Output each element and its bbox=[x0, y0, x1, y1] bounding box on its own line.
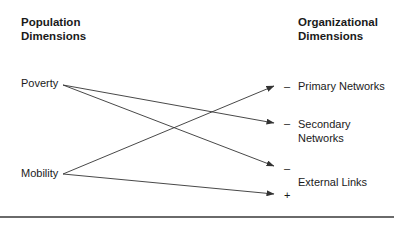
edge-poverty-external bbox=[63, 85, 274, 166]
bottom-rule bbox=[0, 216, 394, 218]
edge-poverty-secondary bbox=[63, 85, 274, 123]
edge-mobility-primary bbox=[63, 86, 274, 174]
edge-mobility-external bbox=[63, 174, 274, 194]
arrows-layer bbox=[0, 0, 396, 225]
